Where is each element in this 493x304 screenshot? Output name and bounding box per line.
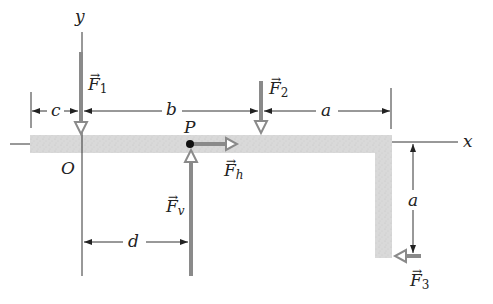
point-p	[186, 140, 194, 148]
f1-arrowhead	[75, 122, 87, 134]
y-axis-label: y	[75, 8, 85, 25]
force-label-f3: → F3	[410, 272, 429, 291]
vector-arrow-icon: →	[168, 191, 178, 203]
f2-arrowhead	[255, 121, 267, 133]
point-p-label: P	[184, 119, 195, 136]
force-label-fh: → Fh	[224, 162, 244, 181]
force-label-f1: → F1	[88, 76, 107, 95]
diagram-graphics	[0, 0, 493, 304]
dim-d-label: d	[128, 233, 139, 250]
beam-vertical-leg	[375, 153, 392, 258]
force-subscript: 1	[100, 82, 108, 96]
force-label-f2: → F2	[269, 80, 288, 99]
lever-diagram: y x O P c b a d a → F1 → F2 → Fh → Fv → …	[0, 0, 493, 304]
force-subscript: 2	[281, 86, 289, 100]
x-axis-label: x	[463, 133, 473, 150]
origin-label: O	[61, 160, 75, 177]
dim-a-top-label: a	[321, 102, 331, 119]
vector-arrow-icon: →	[271, 73, 281, 85]
force-subscript: h	[236, 168, 244, 182]
vector-arrow-icon: →	[90, 69, 100, 81]
dim-c-label: c	[51, 102, 61, 119]
dim-b-label: b	[166, 101, 177, 118]
vector-arrow-icon: →	[412, 265, 422, 277]
vector-arrow-icon: →	[226, 155, 236, 167]
force-label-fv: → Fv	[166, 198, 185, 217]
dim-a-right-label: a	[408, 192, 418, 209]
f3-arrowhead	[395, 250, 406, 262]
force-subscript: v	[178, 204, 185, 218]
force-subscript: 3	[422, 278, 430, 292]
